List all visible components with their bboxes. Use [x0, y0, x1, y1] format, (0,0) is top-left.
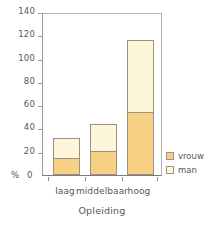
x-axis-tick-mark: [48, 177, 49, 181]
y-axis-tick-label: 20: [24, 147, 35, 156]
bar-segment-vrouw: [53, 158, 80, 175]
bar-hoog: [127, 40, 154, 175]
legend-item-man: man: [166, 163, 204, 177]
y-axis-tick-label: 40: [24, 123, 35, 132]
y-axis-tick-label-zero: 0: [27, 171, 32, 180]
bar-segment-man: [53, 138, 80, 158]
bar-segment-vrouw: [90, 151, 117, 175]
chart-legend: vrouwman: [166, 149, 204, 177]
x-axis-category-label: middelbaar: [76, 186, 128, 197]
bar-segment-man: [90, 124, 117, 151]
y-axis-tick-label: 100: [18, 54, 35, 63]
legend-label: man: [178, 166, 197, 175]
legend-item-vrouw: vrouw: [166, 149, 204, 163]
x-axis-category-label: laag: [55, 186, 75, 197]
x-axis-category-label: hoog: [128, 186, 151, 197]
x-axis-tick-mark: [85, 177, 86, 181]
y-axis-tick-label: 60: [24, 100, 35, 109]
bar-segment-vrouw: [127, 112, 154, 175]
bar-laag: [53, 138, 80, 175]
y-axis-tick-label: 120: [18, 30, 35, 39]
legend-swatch-icon: [166, 166, 174, 174]
stacked-bar-chart: 20406080100120140 % laagmiddelbaarhoog O…: [0, 0, 207, 226]
bar-segment-man: [127, 40, 154, 112]
legend-swatch-icon: [166, 152, 174, 160]
y-axis-tick-label: 80: [24, 77, 35, 86]
x-axis-title: Opleiding: [42, 205, 162, 216]
x-axis-tick-mark: [122, 177, 123, 181]
plot-area: [42, 13, 162, 176]
bar-middelbaar: [90, 124, 117, 175]
legend-label: vrouw: [178, 152, 204, 161]
y-axis-unit-label: %: [11, 171, 19, 180]
y-axis-tick-label: 140: [18, 7, 35, 16]
x-axis-tick-mark: [157, 177, 158, 181]
